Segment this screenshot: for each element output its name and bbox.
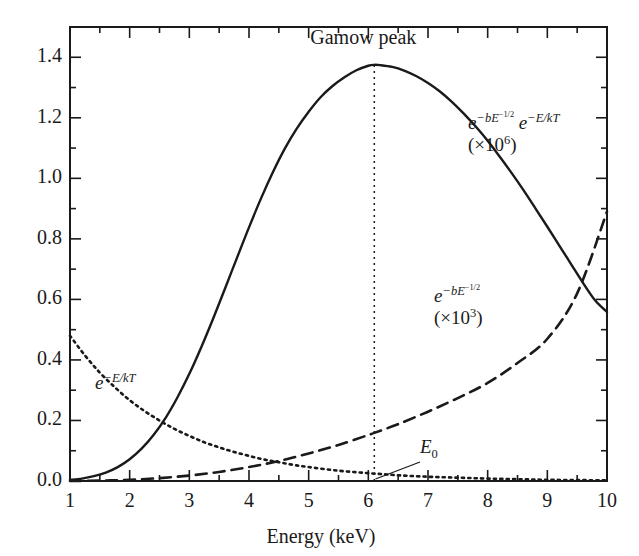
x-tick-label: 10 bbox=[582, 489, 632, 512]
plot-frame bbox=[70, 27, 607, 481]
curve-maxwell-boltzmann bbox=[70, 336, 607, 481]
solid-label-exp1: −bE−1/2 bbox=[476, 111, 514, 125]
plot-canvas bbox=[0, 0, 639, 556]
solid-label-exp1-base: −bE bbox=[476, 111, 498, 125]
solid-curve-label-line1: e−bE−1/2 e−E/kT bbox=[468, 112, 559, 133]
dashed-curve-label-line1: e−bE−1/2 bbox=[434, 285, 480, 306]
e0-subscript: 0 bbox=[432, 447, 438, 461]
x-axis-title: Energy (keV) bbox=[267, 525, 376, 548]
x-tick-label: 6 bbox=[343, 489, 393, 512]
dotted-curve-label: e−E/kT bbox=[95, 372, 136, 394]
y-tick-label: 0.6 bbox=[8, 286, 62, 309]
y-tick-label: 0.8 bbox=[8, 226, 62, 249]
dashed-label-exp1-base: −bE bbox=[442, 284, 464, 298]
x-tick-label: 5 bbox=[284, 489, 334, 512]
dashed-label-mult-close: ) bbox=[476, 307, 482, 328]
solid-label-mult-close: ) bbox=[510, 134, 516, 155]
solid-curve-label-line2: (×106) bbox=[468, 134, 559, 156]
y-tick-label: 1.2 bbox=[8, 105, 62, 128]
y-tick-label: 0.0 bbox=[8, 468, 62, 491]
dotted-label-exp: −E/kT bbox=[103, 371, 135, 385]
plot-frame-rect bbox=[70, 27, 607, 481]
dashed-label-exp1: −bE−1/2 bbox=[442, 284, 480, 298]
solid-curve-label: e−bE−1/2 e−E/kT (×106) bbox=[468, 112, 559, 156]
dashed-label-mult: (×10 bbox=[434, 307, 470, 328]
e0-symbol: E bbox=[420, 436, 432, 457]
e0-annotation: E0 bbox=[420, 436, 438, 458]
x-tick-label: 9 bbox=[522, 489, 572, 512]
dashed-curve-label: e−bE−1/2 (×103) bbox=[434, 285, 483, 329]
x-tick-label: 1 bbox=[45, 489, 95, 512]
axis-ticks bbox=[70, 27, 607, 481]
gamow-peak-figure: 1.41.21.00.80.60.40.20.0 12345678910 Gam… bbox=[0, 0, 639, 556]
solid-label-exp1-inner: −1/2 bbox=[499, 110, 514, 119]
y-tick-label: 1.4 bbox=[8, 44, 62, 67]
solid-label-mult: (×10 bbox=[468, 134, 504, 155]
y-tick-label: 0.2 bbox=[8, 407, 62, 430]
x-tick-label: 7 bbox=[403, 489, 453, 512]
gamow-peak-title: Gamow peak bbox=[310, 26, 416, 49]
x-tick-label: 2 bbox=[105, 489, 155, 512]
y-tick-label: 1.0 bbox=[8, 165, 62, 188]
dashed-curve-label-line2: (×103) bbox=[434, 307, 483, 329]
x-tick-label: 4 bbox=[224, 489, 274, 512]
x-tick-label: 3 bbox=[164, 489, 214, 512]
solid-label-e2: e bbox=[519, 112, 527, 133]
x-tick-label: 8 bbox=[463, 489, 513, 512]
y-tick-label: 0.4 bbox=[8, 347, 62, 370]
dashed-label-exp1-inner: −1/2 bbox=[465, 283, 480, 292]
solid-label-exp2: −E/kT bbox=[527, 111, 559, 125]
